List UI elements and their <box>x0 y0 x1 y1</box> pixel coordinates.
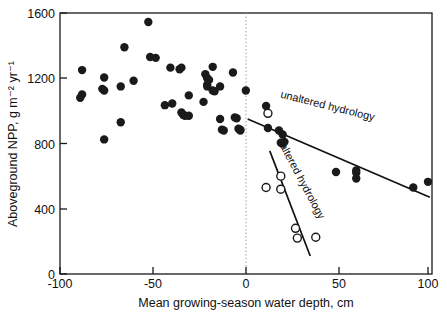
data-point <box>199 98 207 106</box>
data-point <box>242 86 250 94</box>
regression-lines-group <box>248 119 430 256</box>
data-point <box>144 18 152 26</box>
x-tick-label-50: 50 <box>332 277 346 291</box>
x-tick-label-minus50: -50 <box>144 277 162 291</box>
x-axis-title-text: Mean growing-season water depth, cm <box>138 296 353 310</box>
annotation-altered-hydrology: altered hydrology <box>278 141 328 222</box>
data-point <box>100 86 108 94</box>
data-point <box>209 63 217 71</box>
data-point <box>409 183 417 191</box>
data-point <box>352 174 360 182</box>
data-point <box>76 94 84 102</box>
data-point <box>100 135 108 143</box>
x-tick-label-0: 0 <box>243 277 250 291</box>
data-point <box>177 63 185 71</box>
data-point <box>220 126 228 134</box>
annotation-unaltered-hydrology: unaltered hydrology <box>279 88 376 123</box>
data-point <box>424 178 432 186</box>
data-point <box>185 91 193 99</box>
data-point <box>78 66 86 74</box>
data-point <box>232 114 240 122</box>
data-point <box>264 124 272 132</box>
data-point <box>120 43 128 51</box>
y-axis-title: Aboveground NPP, g m⁻² yr⁻¹ <box>6 61 20 227</box>
x-tick-label-100: 100 <box>418 277 439 291</box>
data-point <box>168 99 176 107</box>
scatter-plot-svg: Aboveground NPP, g m⁻² yr⁻¹ 1600 1200 80… <box>0 0 447 315</box>
data-point <box>117 118 125 126</box>
y-tick-label-1200: 1200 <box>27 72 55 86</box>
data-point <box>277 185 285 193</box>
y-tick-label-800: 800 <box>34 138 55 152</box>
data-point <box>161 101 169 109</box>
data-point <box>229 68 237 76</box>
data-point <box>100 73 108 81</box>
data-point <box>278 130 286 138</box>
data-point <box>205 76 213 84</box>
x-tick-label-minus100: -100 <box>47 277 72 291</box>
data-point <box>264 109 272 117</box>
y-axis-title-text: Aboveground NPP, g m⁻² yr⁻¹ <box>6 61 20 227</box>
data-point <box>277 172 285 180</box>
y-tick-label-400: 400 <box>34 203 55 217</box>
data-point <box>216 82 224 90</box>
data-point <box>293 234 301 242</box>
y-axis-ticks: 1600 1200 800 400 0 <box>27 7 67 282</box>
series-annotations-group: unaltered hydrologyaltered hydrology <box>278 88 377 221</box>
series-unaltered-hydrology-points <box>76 18 432 192</box>
chart-figure: Aboveground NPP, g m⁻² yr⁻¹ 1600 1200 80… <box>0 0 447 315</box>
y-tick-label-1600: 1600 <box>27 7 55 21</box>
x-axis-ticks: -100 -50 0 50 100 <box>47 267 438 291</box>
data-point <box>117 82 125 90</box>
data-point <box>166 63 174 71</box>
data-point <box>236 125 244 133</box>
data-point <box>216 115 224 123</box>
data-point <box>332 168 340 176</box>
data-point <box>151 54 159 62</box>
data-point <box>312 233 320 241</box>
data-point <box>129 77 137 85</box>
data-point <box>262 184 270 192</box>
data-point <box>185 112 193 120</box>
data-point <box>292 224 300 232</box>
